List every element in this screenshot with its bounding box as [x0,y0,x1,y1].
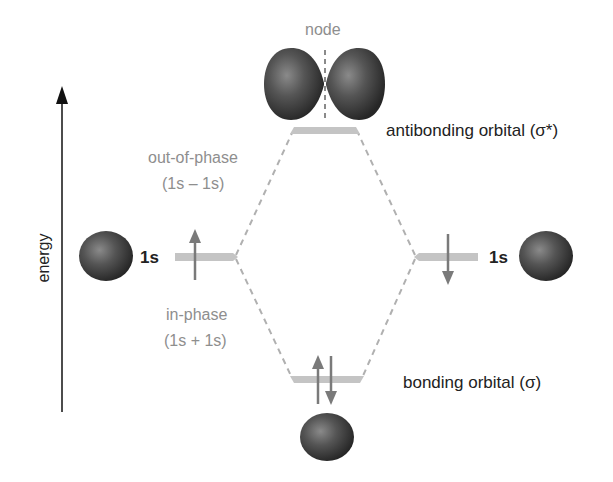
bonding-level [290,376,364,383]
left-1s-sphere-icon [79,231,133,281]
mo-diagram [0,0,613,482]
out-of-phase-label: out-of-phase [148,150,238,166]
antibonding-label: antibonding orbital (σ*) [386,122,558,139]
right-1s-sphere-icon [519,231,573,281]
energy-axis [56,86,68,412]
antibonding-lobes-icon [264,48,385,120]
node-label: node [305,22,341,38]
right-1s-label: 1s [489,249,508,266]
correlation-lines [236,133,415,378]
right-1s-level [414,253,478,261]
out-of-phase-combination: (1s – 1s) [162,176,224,192]
left-1s-level [175,253,238,261]
bonding-sphere-icon [300,413,354,461]
in-phase-label: in-phase [166,307,227,323]
antibonding-level [290,127,360,134]
left-1s-label: 1s [140,249,159,266]
energy-axis-label: energy [36,228,52,288]
bonding-label: bonding orbital (σ) [403,374,541,391]
axis-arrowhead-icon [56,86,68,104]
in-phase-combination: (1s + 1s) [164,333,227,349]
